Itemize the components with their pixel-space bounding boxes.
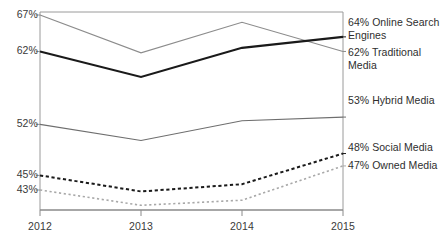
- series-line-social-media: [40, 154, 343, 192]
- y-axis-label: 43%: [17, 183, 38, 195]
- series-label-owned-media: 47% Owned Media: [348, 159, 437, 172]
- chart-series-layer: [40, 15, 343, 205]
- series-line-online-search-engines: [40, 15, 343, 53]
- y-axis-label: 45%: [17, 168, 38, 180]
- x-axis-label: 2015: [313, 220, 373, 232]
- x-axis-label: 2013: [111, 220, 171, 232]
- y-axis-label: 62%: [17, 44, 38, 56]
- y-axis-ticks: [36, 15, 40, 190]
- y-axis-label: 52%: [17, 117, 38, 129]
- series-line-hybrid-media: [40, 117, 343, 140]
- series-line-traditional-media: [40, 37, 343, 77]
- series-label-traditional-media: 62% Traditional Media: [348, 46, 421, 71]
- series-label-social-media: 48% Social Media: [348, 141, 433, 154]
- line-chart: 67%62%52%45%43% 2012201320142015 64% Onl…: [0, 0, 445, 241]
- x-axis-ticks: [40, 210, 343, 216]
- y-axis-label: 67%: [17, 8, 38, 20]
- series-line-owned-media: [40, 166, 343, 205]
- series-label-online-search-engines: 64% Online Search Engines: [348, 16, 439, 41]
- x-axis-label: 2014: [212, 220, 272, 232]
- x-axis-label: 2012: [10, 220, 70, 232]
- series-label-hybrid-media: 53% Hybrid Media: [348, 94, 435, 107]
